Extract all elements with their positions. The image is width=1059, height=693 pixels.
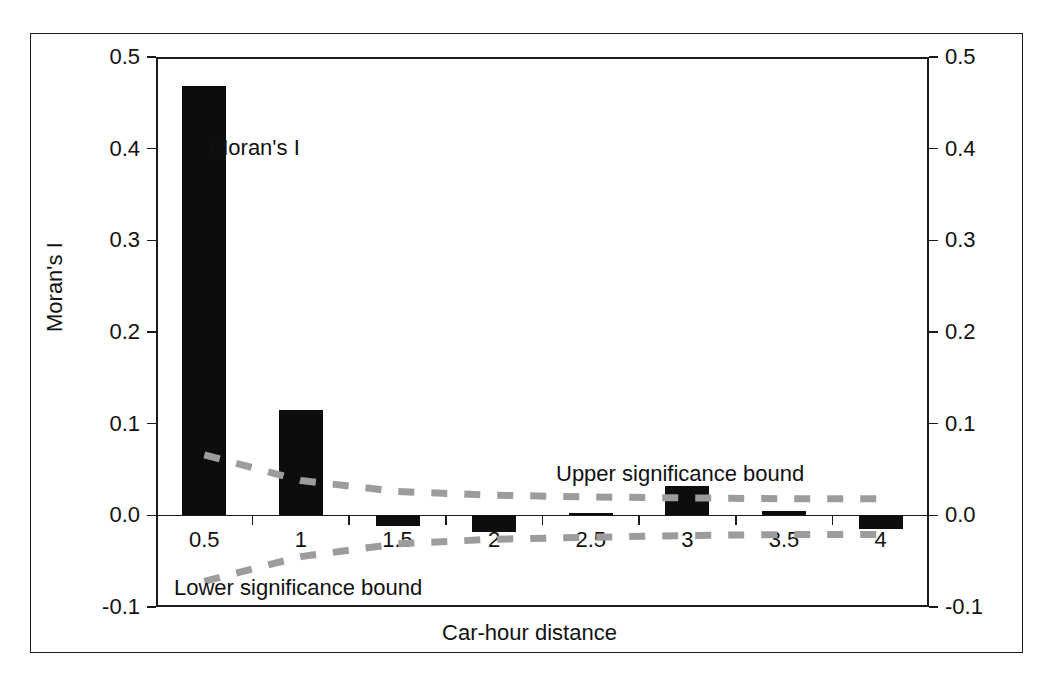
y-tick-left	[147, 148, 156, 150]
figure: 0.50.40.30.20.10.0-0.1 0.50.40.30.20.10.…	[0, 0, 1059, 693]
lower-significance-bound-annotation: Lower significance bound	[174, 577, 422, 599]
y-axis-title: Moran's I	[44, 242, 66, 332]
x-tick-label: 0.5	[189, 529, 220, 551]
x-axis-title: Car-hour distance	[0, 622, 1059, 644]
x-tick	[542, 515, 544, 525]
y-tick-label-right: 0.5	[945, 46, 976, 68]
morans-i-annotation: Moran's I	[210, 137, 300, 159]
bar	[472, 515, 516, 532]
x-tick	[445, 515, 447, 525]
y-tick-right	[929, 515, 938, 517]
bar	[859, 515, 903, 529]
y-tick-left	[147, 331, 156, 333]
bar	[762, 511, 806, 516]
y-tick-left	[147, 423, 156, 425]
plot-top-rule	[156, 57, 929, 59]
y-tick-left	[147, 606, 156, 608]
x-tick-label: 2.5	[576, 529, 607, 551]
x-tick-label: 1.5	[382, 529, 413, 551]
x-tick	[638, 515, 640, 525]
x-tick	[252, 515, 254, 525]
y-tick-left	[147, 240, 156, 242]
y-tick-label-right: 0.4	[945, 138, 976, 160]
y-tick-right	[929, 606, 938, 608]
y-tick-label-right: 0.0	[945, 504, 976, 526]
y-tick-label-right: 0.2	[945, 321, 976, 343]
bar	[376, 515, 420, 526]
y-tick-right	[929, 240, 938, 242]
x-tick	[735, 515, 737, 525]
y-tick-right	[929, 423, 938, 425]
y-tick-label-left: 0.2	[109, 321, 140, 343]
y-axis-left-spine	[156, 57, 158, 607]
x-tick-label: 3.5	[769, 529, 800, 551]
y-tick-label-left: 0.1	[109, 413, 140, 435]
upper-significance-bound-annotation: Upper significance bound	[556, 463, 804, 485]
bar	[569, 513, 613, 516]
y-tick-label-right: 0.3	[945, 229, 976, 251]
y-tick-label-right: -0.1	[945, 596, 983, 618]
y-tick-label-left: 0.0	[109, 504, 140, 526]
y-tick-label-left: 0.4	[109, 138, 140, 160]
x-tick	[348, 515, 350, 525]
y-tick-label-left: -0.1	[102, 596, 140, 618]
y-tick-left	[147, 56, 156, 58]
y-tick-right	[929, 148, 938, 150]
y-tick-right	[929, 331, 938, 333]
y-tick-label-right: 0.1	[945, 413, 976, 435]
bar	[279, 410, 323, 515]
x-tick-label: 1	[295, 529, 307, 551]
plot-bottom-rule	[156, 605, 929, 607]
x-tick-label: 3	[681, 529, 693, 551]
x-tick-label: 4	[875, 529, 887, 551]
plot-area: 0.50.40.30.20.10.0-0.1 0.50.40.30.20.10.…	[156, 57, 929, 607]
x-tick-label: 2	[488, 529, 500, 551]
y-tick-label-left: 0.3	[109, 229, 140, 251]
y-tick-label-left: 0.5	[109, 46, 140, 68]
y-tick-left	[147, 515, 156, 517]
bar	[665, 486, 709, 515]
y-tick-right	[929, 56, 938, 58]
x-tick	[832, 515, 834, 525]
